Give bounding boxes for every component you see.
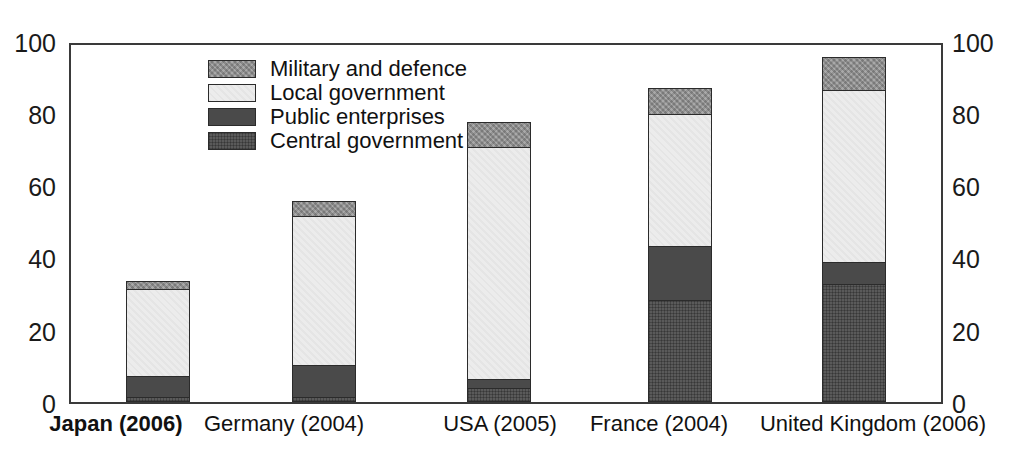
legend-label-local: Local government [270, 82, 445, 104]
bar-segment-germany-public-enterprises[interactable] [292, 365, 356, 399]
y-axis-left-tick-60: 60 [28, 175, 56, 200]
x-axis-label-united-kingdom: United Kingdom (2006) [742, 412, 1004, 436]
y-axis-left-tick-20: 20 [28, 320, 56, 345]
y-axis-right-tick-40: 40 [952, 247, 980, 272]
bar-segment-united-kingdom-public-enterprises[interactable] [822, 262, 886, 285]
y-axis-right-tick-100: 100 [952, 31, 994, 56]
y-axis-left-tick-80: 80 [28, 103, 56, 128]
x-axis-label-usa: USA (2005) [420, 412, 580, 436]
bar-segment-usa-local-government[interactable] [467, 147, 531, 381]
bar-segment-japan-local-government[interactable] [126, 289, 190, 377]
bar-segment-usa-central-government[interactable] [467, 388, 531, 402]
bar-segment-france-military-and-defence[interactable] [648, 88, 712, 114]
legend-label-public: Public enterprises [270, 106, 445, 128]
legend-label-central: Central government [270, 130, 463, 152]
bar-segment-usa-public-enterprises[interactable] [467, 379, 531, 389]
military-swatch-icon [208, 60, 256, 78]
y-axis-left-tick-100: 100 [14, 31, 56, 56]
bar-segment-united-kingdom-local-government[interactable] [822, 90, 886, 264]
bar-segment-united-kingdom-military-and-defence[interactable] [822, 57, 886, 92]
bar-segment-japan-public-enterprises[interactable] [126, 376, 190, 399]
x-axis-label-germany: Germany (2004) [204, 412, 364, 436]
bar-segment-france-local-government[interactable] [648, 113, 712, 247]
legend-item-military[interactable]: Military and defence [208, 57, 467, 80]
plot-area: Military and defence Local government Pu… [69, 43, 943, 404]
legend-item-central[interactable]: Central government [208, 129, 467, 152]
central-swatch-icon [208, 132, 256, 150]
bar-segment-germany-local-government[interactable] [292, 216, 356, 367]
bar-segment-usa-military-and-defence[interactable] [467, 122, 531, 148]
legend-label-military: Military and defence [270, 58, 467, 80]
bar-segment-france-public-enterprises[interactable] [648, 246, 712, 301]
bar-segment-france-central-government[interactable] [648, 299, 712, 402]
y-axis-left-tick-40: 40 [28, 247, 56, 272]
local-swatch-icon [208, 84, 256, 102]
y-axis-right-tick-80: 80 [952, 103, 980, 128]
x-axis-label-france: France (2004) [559, 412, 759, 436]
chart-canvas: 100 80 60 40 20 0 100 80 60 40 20 0 Mili… [0, 0, 1012, 456]
legend-item-public[interactable]: Public enterprises [208, 105, 467, 128]
x-axis-label-japan: Japan (2006) [36, 412, 196, 436]
bar-segment-japan-military-and-defence[interactable] [126, 281, 190, 290]
y-axis-right-tick-20: 20 [952, 320, 980, 345]
legend: Military and defence Local government Pu… [208, 57, 467, 153]
legend-item-local[interactable]: Local government [208, 81, 467, 104]
y-axis-right-tick-60: 60 [952, 175, 980, 200]
bar-segment-germany-military-and-defence[interactable] [292, 201, 356, 217]
bar-segment-united-kingdom-central-government[interactable] [822, 284, 886, 402]
public-swatch-icon [208, 108, 256, 126]
